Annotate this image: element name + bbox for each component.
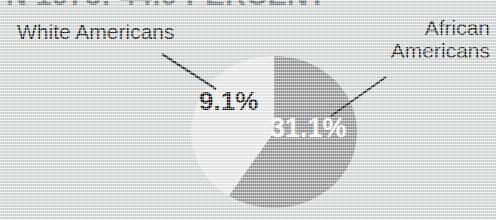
label-white-americans: White Americans: [17, 20, 175, 43]
label-african-americans-line2: Americans: [345, 39, 490, 62]
value-label-white-americans: 9.1%: [199, 86, 258, 117]
label-african-americans-line1: African: [345, 16, 490, 39]
value-label-african-americans: 31.1%: [270, 113, 347, 144]
figure-title-text: N 1975: 44.0 PERCENT: [6, 0, 326, 12]
pie-chart-figure: N 1975: 44.0 PERCENT White Americans Afr…: [0, 0, 496, 220]
label-african-americans: African Americans: [345, 16, 490, 62]
figure-title-clipped: N 1975: 44.0 PERCENT: [0, 0, 496, 13]
